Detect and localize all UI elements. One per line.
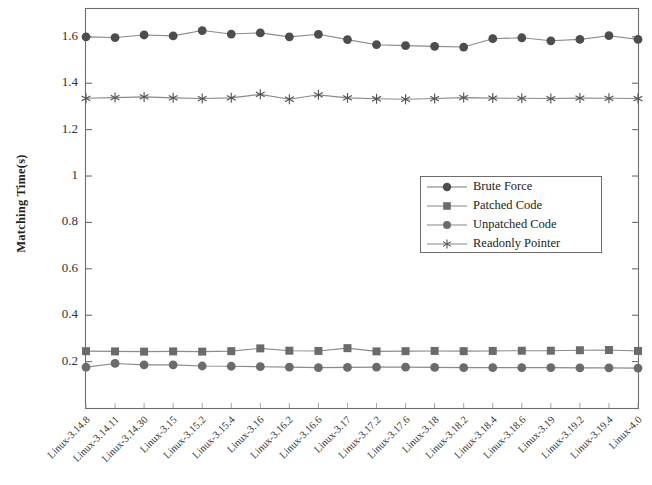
y-tick-label: 1.6 <box>24 28 78 44</box>
legend-item-brute-force: Brute Force <box>421 177 601 196</box>
data-point-marker <box>605 31 614 40</box>
data-point-marker <box>372 363 381 372</box>
data-point-marker <box>314 347 322 355</box>
data-point-marker <box>314 30 323 39</box>
series-line <box>86 31 638 47</box>
data-point-marker <box>402 347 410 355</box>
legend-item-patched-code: Patched Code <box>421 196 601 215</box>
chart-legend: Brute Force Patched Code Unpatched Code <box>420 176 602 253</box>
data-point-marker <box>343 344 351 352</box>
data-point-marker <box>285 32 294 41</box>
data-point-marker <box>82 363 91 372</box>
data-series <box>82 344 642 355</box>
data-point-marker <box>227 347 235 355</box>
data-point-marker <box>634 35 643 44</box>
y-tick-label: 1.2 <box>24 121 78 137</box>
data-series <box>82 26 643 51</box>
data-point-marker <box>169 32 178 41</box>
data-point-marker <box>634 347 642 355</box>
data-point-marker <box>488 34 497 43</box>
data-point-marker <box>546 36 555 45</box>
data-point-marker <box>401 363 410 372</box>
data-point-marker <box>256 28 265 37</box>
legend-item-unpatched-code: Unpatched Code <box>421 215 601 234</box>
data-point-marker <box>459 43 468 52</box>
data-point-marker <box>372 40 381 49</box>
data-point-marker <box>634 364 643 373</box>
data-point-marker <box>575 35 584 44</box>
legend-label-readonly-pointer: Readonly Pointer <box>469 236 560 251</box>
data-point-marker <box>256 362 265 371</box>
data-point-marker <box>517 33 526 42</box>
data-point-marker <box>111 359 120 368</box>
legend-label-patched-code: Patched Code <box>469 198 542 213</box>
data-point-marker <box>198 348 206 356</box>
data-point-marker <box>140 31 149 40</box>
data-point-marker <box>111 347 119 355</box>
legend-label-unpatched-code: Unpatched Code <box>469 217 557 232</box>
data-point-marker <box>256 344 264 352</box>
data-point-marker <box>111 33 120 42</box>
legend-item-readonly-pointer: Readonly Pointer <box>421 234 601 253</box>
data-point-marker <box>82 347 90 355</box>
data-point-marker <box>605 363 614 372</box>
data-series <box>82 89 643 104</box>
legend-marker-star-icon <box>425 237 469 251</box>
legend-label-brute-force: Brute Force <box>469 179 532 194</box>
data-point-marker <box>285 363 294 372</box>
data-point-marker <box>82 32 91 41</box>
data-point-marker <box>431 347 439 355</box>
chart-figure: Matching Time(s) 0.20.40.60.811.21.41.6 … <box>0 0 652 485</box>
y-tick-label: 0.6 <box>24 260 78 276</box>
y-tick-label: 0.2 <box>24 353 78 369</box>
data-point-marker <box>430 363 439 372</box>
data-point-marker <box>227 362 236 371</box>
data-point-marker <box>401 41 410 50</box>
data-point-marker <box>343 363 352 372</box>
data-point-marker <box>517 363 526 372</box>
data-point-marker <box>518 347 526 355</box>
series-line <box>86 348 638 351</box>
data-point-marker <box>227 30 236 39</box>
data-point-marker <box>430 42 439 51</box>
data-point-marker <box>459 363 468 372</box>
data-point-marker <box>169 347 177 355</box>
data-point-marker <box>169 360 178 369</box>
y-tick-label: 0.8 <box>24 213 78 229</box>
legend-marker-circle-icon <box>425 218 469 232</box>
data-point-marker <box>285 347 293 355</box>
y-tick-label: 1 <box>24 167 78 183</box>
data-point-marker <box>489 347 497 355</box>
data-series <box>82 359 643 372</box>
data-point-marker <box>575 363 584 372</box>
data-point-marker <box>140 348 148 356</box>
data-point-marker <box>576 346 584 354</box>
data-point-marker <box>460 347 468 355</box>
data-point-marker <box>198 362 207 371</box>
y-tick-label: 0.4 <box>24 306 78 322</box>
legend-marker-square-filled-icon <box>425 199 469 213</box>
data-point-marker <box>140 360 149 369</box>
y-axis-label: Matching Time(s) <box>14 139 29 269</box>
data-point-marker <box>547 347 555 355</box>
data-point-marker <box>605 346 613 354</box>
data-point-marker <box>314 363 323 372</box>
data-point-marker <box>198 26 207 35</box>
y-tick-label: 1.4 <box>24 74 78 90</box>
data-point-marker <box>343 35 352 44</box>
data-point-marker <box>373 347 381 355</box>
legend-marker-circle-filled-icon <box>425 180 469 194</box>
data-point-marker <box>546 363 555 372</box>
data-point-marker <box>488 363 497 372</box>
